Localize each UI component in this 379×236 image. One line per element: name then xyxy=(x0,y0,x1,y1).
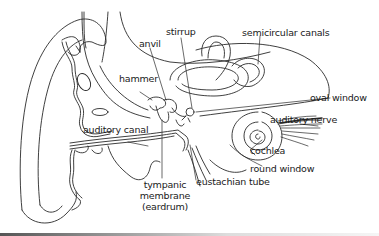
label-tympanic-membrane-2: membrane xyxy=(138,191,192,201)
ossicles xyxy=(148,97,194,126)
label-eustachian-tube: eustachian tube xyxy=(196,177,270,187)
label-tympanic-membrane-3: (eardrum) xyxy=(138,202,192,212)
label-auditory-nerve: auditory nerve xyxy=(270,115,337,125)
label-tympanic-membrane-1: tympanic xyxy=(140,180,190,190)
pinna-outline xyxy=(20,19,106,223)
label-round-window: round window xyxy=(250,164,314,174)
label-semicircular-canals: semicircular canals xyxy=(242,28,330,38)
leader-lines xyxy=(128,36,330,180)
label-cochlea: cochlea xyxy=(250,146,285,156)
bottom-divider xyxy=(0,233,379,236)
ear-diagram: anvil stirrup semicircular canals hammer… xyxy=(0,0,379,236)
label-stirrup: stirrup xyxy=(166,27,196,37)
label-hammer: hammer xyxy=(119,74,158,84)
concha xyxy=(62,42,112,137)
label-auditory-canal: auditory canal xyxy=(83,125,148,135)
semicircular-canals xyxy=(170,36,329,116)
label-oval-window: oval window xyxy=(310,93,367,103)
label-anvil: anvil xyxy=(139,39,161,49)
